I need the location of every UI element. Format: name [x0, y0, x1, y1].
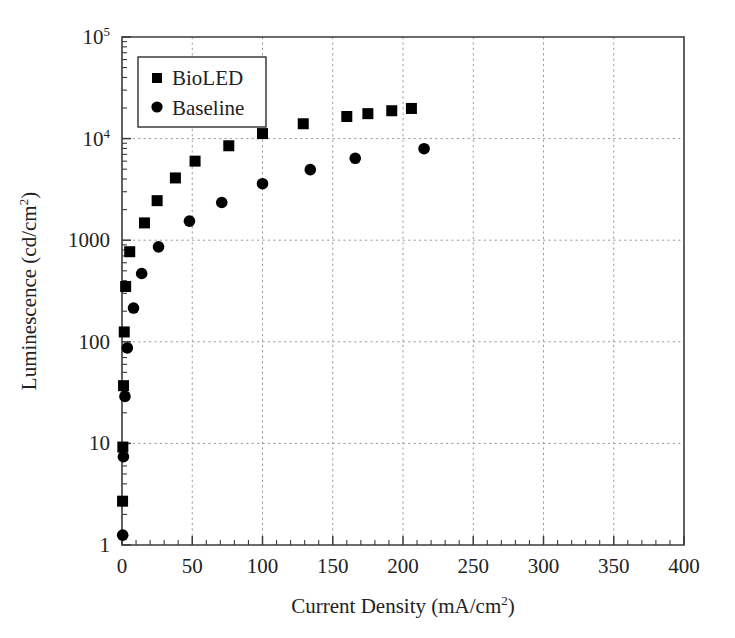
scatter-plot-svg: 050100150200250300350400 110100100010410…: [0, 0, 735, 638]
data-point-baseline: [117, 529, 129, 541]
chart-figure: 050100150200250300350400 110100100010410…: [0, 0, 735, 638]
data-point-baseline: [118, 451, 130, 463]
data-point-baseline: [349, 152, 361, 164]
data-point-bioled: [119, 326, 130, 337]
y-tick-label: 100: [79, 330, 111, 354]
data-point-baseline: [128, 302, 140, 314]
data-point-bioled: [257, 128, 268, 139]
y-tick-label: 1: [100, 533, 111, 557]
data-point-bioled: [386, 105, 397, 116]
legend-label-bioled: BioLED: [172, 66, 243, 90]
x-tick-label: 50: [182, 554, 203, 578]
data-point-bioled: [406, 103, 417, 114]
data-point-bioled: [117, 496, 128, 507]
data-point-bioled: [139, 217, 150, 228]
y-tick-label: 10: [89, 431, 110, 455]
data-point-bioled: [170, 172, 181, 183]
x-tick-label: 0: [117, 554, 128, 578]
data-point-baseline: [153, 241, 165, 253]
legend-label-baseline: Baseline: [172, 96, 244, 120]
data-point-bioled: [298, 118, 309, 129]
data-point-baseline: [304, 164, 316, 176]
chart-legend: BioLED Baseline: [138, 57, 266, 127]
data-point-bioled: [152, 195, 163, 206]
y-tick-label: 1000: [68, 228, 110, 252]
x-axis-title: Current Density (mA/cm2): [291, 593, 514, 618]
data-point-bioled: [223, 140, 234, 151]
data-point-baseline: [184, 215, 196, 227]
x-tick-label: 350: [598, 554, 630, 578]
legend-marker-circle: [151, 101, 162, 112]
data-point-baseline: [122, 342, 134, 354]
x-tick-label: 300: [528, 554, 560, 578]
data-point-baseline: [257, 178, 269, 190]
data-point-bioled: [362, 108, 373, 119]
x-tick-label: 200: [387, 554, 419, 578]
data-point-bioled: [120, 281, 131, 292]
data-point-bioled: [341, 111, 352, 122]
y-axis-title: Luminescence (cd/cm2): [16, 192, 41, 390]
data-point-baseline: [216, 197, 228, 209]
x-tick-label: 150: [317, 554, 349, 578]
figure-background: [0, 0, 735, 638]
x-tick-label: 100: [247, 554, 279, 578]
data-point-bioled: [190, 156, 201, 167]
data-point-baseline: [136, 268, 148, 280]
data-point-baseline: [418, 143, 430, 155]
x-tick-label: 400: [668, 554, 700, 578]
data-point-bioled: [117, 442, 128, 453]
data-point-bioled: [124, 246, 135, 257]
data-point-bioled: [118, 380, 129, 391]
data-point-baseline: [119, 391, 131, 403]
legend-marker-square: [152, 73, 162, 83]
x-tick-label: 250: [458, 554, 490, 578]
